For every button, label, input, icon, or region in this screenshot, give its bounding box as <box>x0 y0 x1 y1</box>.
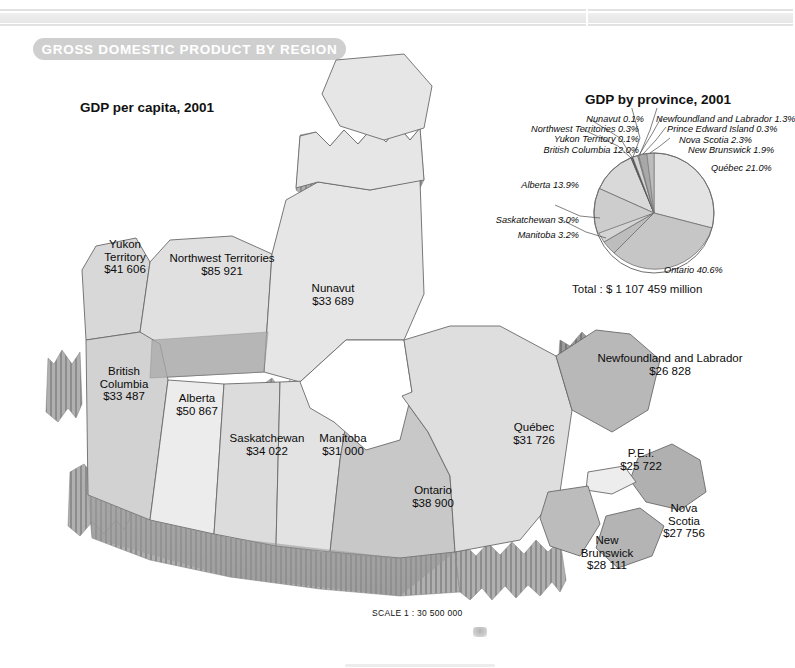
pie-label-new-brunswick: New Brunswick 1.9% <box>688 145 774 155</box>
pie-label-prince-edward-island: Prince Edward Island 0.3% <box>667 124 777 134</box>
map-label-new-brunswick-line1: New <box>569 534 645 547</box>
map-scale-text: SCALE 1 : 30 500 000 <box>372 608 463 618</box>
map-label-new-brunswick-line2: Brunswick <box>569 547 645 560</box>
top-rule-tick <box>586 9 588 26</box>
map-label-manitoba-line1: Manitoba <box>307 432 379 445</box>
map-depth-band-north <box>150 332 268 378</box>
map-label-northwest-territories-line1: Northwest Territories <box>158 252 286 265</box>
map-label-prince-edward-island: P.E.I. $25 722 <box>613 447 669 472</box>
map-label-alberta-line1: Alberta <box>163 392 231 405</box>
pie-total-label: Total : $ 1 107 459 million <box>572 283 702 295</box>
pie-slices <box>594 153 714 273</box>
pie-label-newfoundland-and-labrador: Newfoundland and Labrador 1.3% <box>656 114 795 124</box>
map-label-nova-scotia: Nova Scotia $27 756 <box>655 502 713 540</box>
map-label-nova-scotia-line2: Scotia <box>655 515 713 528</box>
map-label-british-columbia-line2: Columbia <box>89 378 159 391</box>
pie-label-nunavut: Nunavut 0.1% <box>543 114 644 124</box>
pie-label-northwest-territories: Northwest Territories 0.3% <box>500 124 639 134</box>
map-label-nunavut-line1: Nunavut <box>297 282 369 295</box>
map-label-quebec: Québec $31 726 <box>501 421 567 446</box>
region-arctic-island-b[interactable] <box>322 54 432 140</box>
map-label-british-columbia: British Columbia $33 487 <box>89 365 159 403</box>
map-label-manitoba: Manitoba $31 000 <box>307 432 379 457</box>
pie-label-manitoba: Manitoba 3.2% <box>489 230 579 240</box>
top-rule-lower <box>0 24 793 26</box>
map-value-nova-scotia: $27 756 <box>655 527 713 540</box>
map-value-nunavut: $33 689 <box>297 295 369 308</box>
leader-line-nb <box>650 138 670 153</box>
map-label-new-brunswick: New Brunswick $28 111 <box>569 534 645 572</box>
map-value-quebec: $31 726 <box>501 434 567 447</box>
map-value-ontario: $38 900 <box>400 497 466 510</box>
top-rule-upper <box>0 9 793 11</box>
map-value-northwest-territories: $85 921 <box>158 265 286 278</box>
map-value-manitoba: $31 000 <box>307 445 379 458</box>
map-label-yukon-territory: Yukon Territory $41 606 <box>87 238 163 276</box>
map-value-british-columbia: $33 487 <box>89 390 159 403</box>
pie-label-saskatchewan: Saskatchewan 3.0% <box>479 215 579 225</box>
map-value-alberta: $50 867 <box>163 405 231 418</box>
map-label-nova-scotia-line1: Nova <box>655 502 713 515</box>
map-value-newfoundland-and-labrador: $26 828 <box>595 365 745 378</box>
map-label-alberta: Alberta $50 867 <box>163 392 231 417</box>
map-label-ontario: Ontario $38 900 <box>400 484 466 509</box>
map-label-yukon-territory-line1: Yukon <box>87 238 163 251</box>
region-arctic-island-a[interactable] <box>296 126 424 190</box>
map-label-northwest-territories: Northwest Territories $85 921 <box>158 252 286 277</box>
pie-label-yukon-territory: Yukon Territory 0.1% <box>506 134 639 144</box>
pie-label-alberta: Alberta 13.9% <box>500 180 579 190</box>
top-rule-band <box>0 13 793 23</box>
map-label-saskatchewan: Saskatchewan $34 022 <box>222 432 312 457</box>
map-label-saskatchewan-line1: Saskatchewan <box>222 432 312 445</box>
map-value-yukon-territory: $41 606 <box>87 263 163 276</box>
page-corner-mark <box>473 627 487 637</box>
map-label-nunavut: Nunavut $33 689 <box>297 282 369 307</box>
map-value-prince-edward-island: $25 722 <box>613 460 669 473</box>
pie-label-british-columbia: British Columbia 12.0% <box>505 145 639 155</box>
pie-label-ontario: Ontario 40.6% <box>664 265 723 275</box>
pie-label-quebec: Québec 21.0% <box>711 163 772 173</box>
map-value-saskatchewan: $34 022 <box>222 445 312 458</box>
map-extrusion-west-coast <box>46 350 82 422</box>
pie-label-nova-scotia: Nova Scotia 2.3% <box>679 135 752 145</box>
map-value-new-brunswick: $28 111 <box>569 559 645 572</box>
map-label-ontario-line1: Ontario <box>400 484 466 497</box>
map-label-yukon-territory-line2: Territory <box>87 251 163 264</box>
footer-bar <box>345 664 495 667</box>
map-label-prince-edward-island-line1: P.E.I. <box>613 447 669 460</box>
map-label-quebec-line1: Québec <box>501 421 567 434</box>
map-label-newfoundland-and-labrador-line1: Newfoundland and Labrador <box>595 352 745 365</box>
map-label-newfoundland-and-labrador: Newfoundland and Labrador $26 828 <box>595 352 745 377</box>
map-label-british-columbia-line1: British <box>89 365 159 378</box>
